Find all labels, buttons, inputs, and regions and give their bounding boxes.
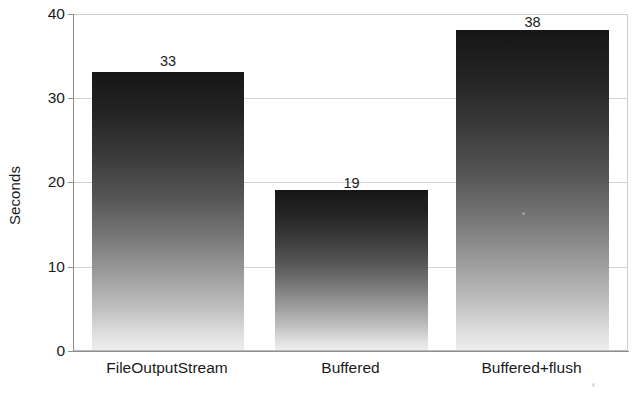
y-axis-title-text: Seconds	[7, 166, 24, 225]
y-tick-label-40: 40	[30, 5, 73, 23]
y-tick-label-0: 0	[30, 342, 73, 360]
y-tick-label-30: 30	[30, 89, 73, 107]
x-label-fileoutputstream: FileOutputStream	[91, 359, 243, 377]
bar-fileoutputstream	[92, 72, 244, 350]
y-axis-tick-labels: 40 30 20 10 0	[30, 0, 73, 399]
y-axis-line	[73, 14, 74, 352]
y-tick-label-20: 20	[30, 173, 73, 191]
y-axis-title: Seconds	[0, 0, 30, 399]
scan-artifact	[522, 212, 525, 215]
bar-chart: Seconds 40 30 20 10 0 33 19 38 FileOutpu…	[0, 0, 632, 399]
x-axis-line	[73, 351, 629, 352]
x-label-buffered: Buffered	[274, 359, 427, 377]
bar-value-fileoutputstream: 33	[92, 53, 244, 69]
bar-value-buffered: 19	[275, 175, 428, 191]
scan-artifact	[592, 383, 595, 387]
bar-buffered-flush	[456, 30, 609, 350]
y-tick-label-10: 10	[30, 258, 73, 276]
x-label-buffered-flush: Buffered+flush	[455, 359, 608, 377]
plot-area: 33 19 38	[73, 14, 628, 351]
bar-buffered	[275, 190, 428, 350]
bar-value-buffered-flush: 38	[456, 14, 609, 30]
